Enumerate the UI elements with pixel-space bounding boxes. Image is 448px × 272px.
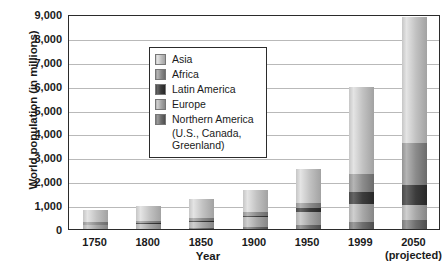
legend-swatch-latin-america-icon [155, 84, 166, 95]
legend-item-asia: Asia [155, 52, 261, 67]
legend-item-africa: Africa [155, 67, 261, 82]
bar-segment [402, 205, 427, 220]
legend-item-latin-america: Latin America [155, 82, 261, 97]
y-axis-tick-label: 7,000 [14, 57, 62, 68]
legend-label-asia: Asia [172, 54, 192, 65]
legend-item-northern-america: Northern America [155, 112, 261, 127]
bar-segment [349, 222, 374, 229]
bar-segment [349, 174, 374, 192]
bar-segment [136, 206, 161, 221]
bar-segment [243, 227, 268, 229]
y-axis-tick-label: 3,000 [14, 153, 62, 164]
y-axis-tick-label: 2,000 [14, 177, 62, 188]
y-axis-tick-label: 9,000 [14, 10, 62, 21]
bar-segment [402, 185, 427, 204]
y-axis-tick-label: 6,000 [14, 81, 62, 92]
bar-1800[interactable] [136, 206, 161, 229]
legend-swatch-asia-icon [155, 54, 166, 65]
legend-item-europe: Europe [155, 97, 261, 112]
y-axis-tick-label: 4,000 [14, 129, 62, 140]
bar-segment [296, 225, 321, 229]
legend-note-line-1: (U.S., Canada, [155, 127, 261, 139]
bar-segment [349, 87, 374, 174]
bar-segment [243, 190, 268, 213]
y-axis-tick-label: 1,000 [14, 201, 62, 212]
legend-swatch-northern-america-icon [155, 114, 166, 125]
population-stacked-bar-chart: World population (in millions) 01,0002,0… [0, 0, 448, 272]
x-axis-title-wrap: Year [0, 250, 448, 262]
bar-segment [189, 222, 214, 229]
legend-label-latin-america: Latin America [172, 84, 236, 95]
legend-swatch-europe-icon [155, 99, 166, 110]
legend-swatch-africa-icon [155, 69, 166, 80]
bar-segment [349, 192, 374, 204]
bar-1750[interactable] [83, 210, 108, 229]
legend-label-europe: Europe [172, 99, 206, 110]
bar-segment [402, 17, 427, 143]
bar-segment [296, 169, 321, 202]
bar-segment [296, 212, 321, 225]
legend-label-northern-america: Northern America [172, 114, 254, 125]
bar-segment [243, 217, 268, 227]
bar-segment [189, 199, 214, 218]
bar-1900[interactable] [243, 190, 268, 229]
y-axis-tick-label: 0 [14, 225, 62, 236]
plot-area: Asia Africa Latin America Europe Norther… [68, 15, 440, 230]
legend-label-africa: Africa [172, 69, 199, 80]
y-axis-tick-label: 8,000 [14, 33, 62, 44]
bar-1850[interactable] [189, 199, 214, 229]
chart-legend: Asia Africa Latin America Europe Norther… [149, 47, 267, 158]
bar-segment [83, 210, 108, 222]
legend-note-line-2: Greenland) [155, 139, 261, 151]
bar-segment [189, 228, 214, 229]
y-axis-tick-label: 5,000 [14, 105, 62, 116]
bar-segment [402, 220, 427, 229]
bar-segment [349, 204, 374, 221]
bar-1999[interactable] [349, 87, 374, 229]
bar-segment [402, 143, 427, 185]
x-axis-title: Year [196, 250, 220, 262]
bar-1950[interactable] [296, 169, 321, 229]
bar-2050[interactable] [402, 17, 427, 229]
